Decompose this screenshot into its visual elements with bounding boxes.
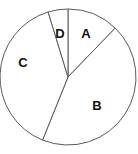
pie-chart-svg: ABCD [0,0,138,154]
pie-chart-figure: ABCD [0,0,138,154]
pie-slices-group [0,9,136,145]
pie-slice-label-a: A [81,26,91,41]
pie-slice-label-c: C [18,55,28,70]
pie-slice-label-d: D [55,26,64,41]
pie-slice-label-b: B [92,98,101,113]
